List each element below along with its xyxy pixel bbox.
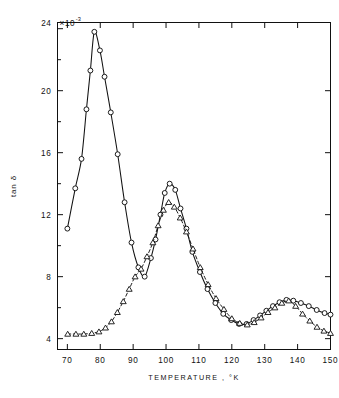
data-point-circles-1 (73, 186, 78, 191)
data-point-circles-37 (298, 301, 303, 306)
data-point-circles-2 (79, 156, 84, 161)
x-tick-label-110: 110 (191, 356, 206, 365)
x-tick-label-90: 90 (128, 356, 139, 365)
data-point-circles-38 (306, 304, 311, 309)
data-point-circles-0 (65, 226, 70, 231)
data-point-triangles-14 (155, 223, 161, 228)
data-point-triangles-4 (96, 329, 102, 334)
x-axis-title: TEMPERATURE , °K (148, 373, 239, 382)
y-tick-label-20: 20 (41, 87, 52, 96)
data-point-triangles-36 (307, 318, 313, 323)
data-point-circles-40 (322, 311, 327, 316)
y-axis-top-label: 24 (41, 19, 51, 28)
data-point-triangles-17 (171, 204, 177, 209)
data-point-triangles-10 (132, 274, 138, 279)
data-point-circles-13 (142, 274, 147, 279)
data-point-circles-5 (92, 29, 97, 34)
data-point-triangles-9 (126, 286, 132, 291)
data-point-circles-26 (221, 311, 226, 316)
y-axis-multiplier-label: ×10 (60, 19, 76, 28)
data-point-circles-20 (178, 206, 183, 211)
y-axis-exponent-label: -3 (76, 16, 82, 22)
data-point-triangles-6 (108, 319, 114, 324)
y-tick-label-12: 12 (41, 211, 52, 220)
data-point-triangles-7 (114, 310, 120, 315)
data-point-triangles-8 (120, 299, 126, 304)
x-tick-label-80: 80 (95, 356, 106, 365)
data-point-circles-8 (108, 110, 113, 115)
data-point-triangles-22 (205, 282, 211, 287)
data-point-circles-19 (173, 187, 178, 192)
data-point-circles-23 (197, 270, 202, 275)
data-point-triangles-37 (314, 324, 320, 329)
data-point-triangles-23 (213, 296, 219, 301)
data-point-circles-10 (122, 200, 127, 205)
data-point-triangles-3 (89, 330, 95, 335)
data-point-circles-39 (314, 308, 319, 313)
x-tick-label-70: 70 (62, 356, 73, 365)
data-point-circles-6 (97, 48, 102, 53)
tan-delta-temperature-chart: 7080901001101201301401504812162024×10-3T… (0, 0, 339, 398)
data-point-circles-11 (129, 240, 134, 245)
data-point-circles-41 (328, 312, 333, 317)
data-point-circles-25 (213, 301, 218, 306)
y-tick-label-4: 4 (46, 335, 51, 344)
data-point-triangles-38 (321, 328, 327, 333)
data-point-circles-18 (167, 181, 172, 186)
data-point-triangles-16 (166, 200, 172, 205)
x-tick-label-140: 140 (290, 356, 306, 365)
y-tick-label-8: 8 (46, 273, 51, 282)
x-tick-label-120: 120 (224, 356, 240, 365)
data-point-circles-4 (88, 68, 93, 73)
data-point-circles-17 (162, 191, 167, 196)
data-point-circles-7 (102, 74, 107, 79)
data-point-circles-3 (84, 107, 89, 112)
x-tick-label-130: 130 (257, 356, 273, 365)
x-tick-label-100: 100 (158, 356, 174, 365)
y-axis-title: tan δ (9, 175, 18, 197)
chart-svg: 7080901001101201301401504812162024×10-3T… (0, 0, 339, 398)
data-point-circles-9 (115, 152, 120, 157)
x-tick-label-150: 150 (323, 356, 339, 365)
y-tick-label-16: 16 (41, 149, 52, 158)
